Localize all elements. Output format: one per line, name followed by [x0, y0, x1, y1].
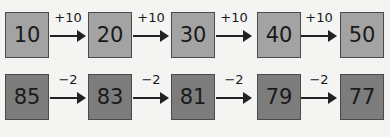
arrow-right-icon [216, 97, 250, 99]
step-label: +10 [214, 10, 254, 25]
number-box: 83 [88, 74, 132, 120]
number-box: 30 [171, 12, 215, 58]
arrow-right-icon [133, 97, 167, 99]
number-box: 50 [340, 12, 384, 58]
step-label: −2 [48, 72, 88, 87]
step-label: −2 [131, 72, 171, 87]
arrow-right-icon [50, 35, 84, 37]
arrow-right-icon [133, 35, 167, 37]
step-label: +10 [131, 10, 171, 25]
step-label: +10 [299, 10, 339, 25]
arrow-right-icon [50, 97, 84, 99]
number-box: 81 [171, 74, 215, 120]
sequence-row-increasing: 10 +10 20 +10 30 +10 40 +10 50 [0, 12, 390, 60]
number-box: 77 [340, 74, 384, 120]
step-label: −2 [299, 72, 339, 87]
step-label: −2 [214, 72, 254, 87]
number-box: 40 [257, 12, 301, 58]
sequence-row-decreasing: 85 −2 83 −2 81 −2 79 −2 77 [0, 74, 390, 122]
number-box: 10 [5, 12, 49, 58]
arrow-right-icon [216, 35, 250, 37]
number-box: 20 [88, 12, 132, 58]
number-box: 85 [5, 74, 49, 120]
arrow-right-icon [301, 35, 335, 37]
arrow-right-icon [301, 97, 335, 99]
number-box: 79 [257, 74, 301, 120]
step-label: +10 [48, 10, 88, 25]
